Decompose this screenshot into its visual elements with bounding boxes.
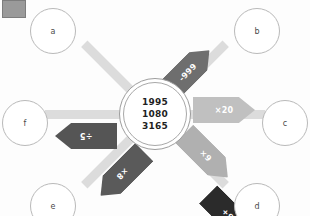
node-f-label: f xyxy=(24,119,27,128)
node-e-label: e xyxy=(51,202,56,211)
node-f[interactable]: f xyxy=(2,100,48,146)
node-c[interactable]: c xyxy=(262,100,308,146)
edge-arrow-c[interactable]: ×20 xyxy=(193,97,255,123)
node-b-label: b xyxy=(254,27,259,36)
node-d-label: d xyxy=(254,202,259,211)
node-b[interactable]: b xyxy=(234,8,280,54)
edge-arrow-f[interactable]: ÷5 xyxy=(55,123,117,149)
edge-label-f: ÷5 xyxy=(80,132,93,141)
edge-label-b: -999 xyxy=(177,61,198,82)
node-d[interactable]: d xyxy=(234,183,280,216)
node-a-label: a xyxy=(51,27,56,36)
center-node[interactable]: 1995 1080 3165 xyxy=(119,78,191,150)
edge-label-c: ×20 xyxy=(215,106,234,115)
node-c-label: c xyxy=(283,119,287,128)
diagram-canvas: +90 -999 ×20 ×9 ×8 ÷5 1995 1080 3165 a b… xyxy=(0,0,310,216)
center-value-2: 1080 xyxy=(142,109,168,120)
edge-label-d: ×9 xyxy=(198,148,213,163)
center-value-1: 1995 xyxy=(142,97,168,108)
center-node-inner: 1995 1080 3165 xyxy=(123,82,187,146)
legend-swatch xyxy=(2,0,26,18)
node-a[interactable]: a xyxy=(30,8,76,54)
node-e[interactable]: e xyxy=(30,183,76,216)
center-value-3: 3165 xyxy=(142,121,168,132)
edge-label-e: ×8 xyxy=(115,166,130,181)
